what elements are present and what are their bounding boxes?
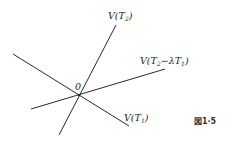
- line-v-t2: [59, 25, 116, 135]
- origin-label: 0: [75, 81, 81, 92]
- line-v-t1: [13, 54, 129, 126]
- label-v-t2-minus-lambda-t1: V(T2−λT1): [140, 55, 189, 67]
- line-v-t2-minus-lambda-t1: [31, 69, 165, 109]
- origin-point: [78, 94, 80, 96]
- label-v-t1: V(T1): [124, 112, 149, 124]
- figure-caption: 図1·5: [194, 117, 217, 126]
- label-v-t2: V(T2): [108, 10, 133, 22]
- vector-space-diagram: 0 V(T2) V(T2−λT1) V(T1) 図1·5: [0, 0, 235, 141]
